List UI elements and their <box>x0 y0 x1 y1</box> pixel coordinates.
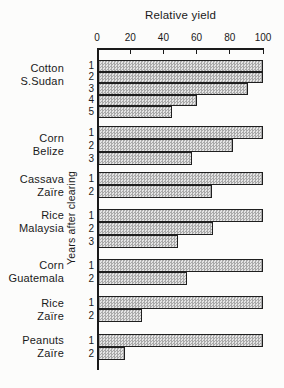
group-label-place: Malaysia <box>0 222 64 236</box>
group-label-place: Belize <box>0 145 64 159</box>
bar <box>97 152 192 165</box>
group-label-crop: Corn <box>0 259 64 273</box>
group-label: RiceMalaysia <box>0 209 64 236</box>
bar <box>97 95 197 107</box>
x-tick <box>263 49 264 54</box>
group-label-place: Guatemala <box>0 272 64 286</box>
group-label: CottonS.Sudan <box>0 62 64 89</box>
y-axis-line <box>97 48 99 370</box>
group-label-place: Zaïre <box>0 310 64 324</box>
bar <box>97 106 172 118</box>
group-label-crop: Rice <box>0 209 64 223</box>
x-tick-label: 0 <box>94 32 100 43</box>
x-tick <box>229 49 230 54</box>
bar <box>97 222 213 235</box>
group-label: CornBelize <box>0 132 64 159</box>
bar <box>97 334 263 347</box>
year-label: 2 <box>80 141 94 151</box>
year-label: 1 <box>80 174 94 184</box>
x-tick-label: 40 <box>158 32 169 43</box>
group-label-place: S.Sudan <box>0 75 64 89</box>
group-label: RiceZaïre <box>0 297 64 324</box>
year-label: 2 <box>80 187 94 197</box>
bar <box>97 259 263 272</box>
x-tick-label: 60 <box>191 32 202 43</box>
bar <box>97 347 125 360</box>
bar <box>97 235 178 248</box>
group-label-place: Zaïre <box>0 186 64 200</box>
year-label: 2 <box>80 349 94 359</box>
group-label-crop: Peanuts <box>0 334 64 348</box>
year-label: 1 <box>80 128 94 138</box>
year-label: 5 <box>80 107 94 117</box>
bar <box>97 172 263 185</box>
group-label: CornGuatemala <box>0 259 64 286</box>
x-tick <box>163 49 164 54</box>
bar <box>97 72 263 84</box>
year-label: 1 <box>80 298 94 308</box>
group-label-crop: Cassava <box>0 173 64 187</box>
x-tick <box>97 49 98 54</box>
year-label: 2 <box>80 311 94 321</box>
plot-area: CottonS.Sudan12345CornBelize123CassavaZa… <box>97 0 284 388</box>
bar <box>97 83 248 95</box>
year-label: 2 <box>80 274 94 284</box>
x-tick <box>130 49 131 54</box>
year-label: 1 <box>80 336 94 346</box>
bar <box>97 309 142 322</box>
year-label: 1 <box>80 261 94 271</box>
year-label: 1 <box>80 211 94 221</box>
year-label: 2 <box>80 224 94 234</box>
group-label: PeanutsZaïre <box>0 334 64 361</box>
x-tick <box>196 49 197 54</box>
bar <box>97 126 263 139</box>
figure-page: Relative yield Years after clearing Cott… <box>0 0 284 388</box>
year-label: 2 <box>80 72 94 82</box>
group-label-crop: Rice <box>0 297 64 311</box>
group-label-place: Zaïre <box>0 347 64 361</box>
y-axis-label: Years after clearing <box>65 171 77 265</box>
year-label: 3 <box>80 84 94 94</box>
year-label: 1 <box>80 61 94 71</box>
group-label-crop: Corn <box>0 132 64 146</box>
bar <box>97 60 263 72</box>
year-label: 4 <box>80 95 94 105</box>
bar <box>97 296 263 309</box>
x-tick-label: 100 <box>255 32 272 43</box>
x-axis-line <box>97 48 264 50</box>
year-label: 3 <box>80 237 94 247</box>
bar <box>97 139 233 152</box>
bar <box>97 272 187 285</box>
x-tick-label: 80 <box>224 32 235 43</box>
group-label: CassavaZaïre <box>0 173 64 200</box>
year-label: 3 <box>80 154 94 164</box>
x-tick-label: 20 <box>125 32 136 43</box>
bar <box>97 209 263 222</box>
group-label-crop: Cotton <box>0 62 64 76</box>
bar <box>97 185 212 198</box>
